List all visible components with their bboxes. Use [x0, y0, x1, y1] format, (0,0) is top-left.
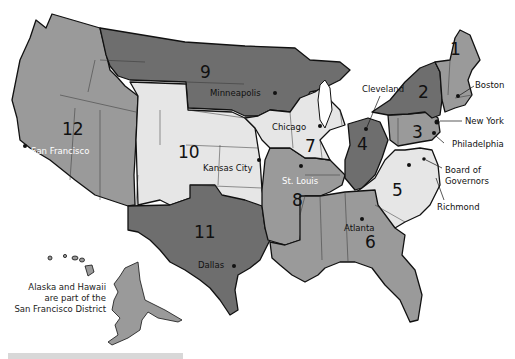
district-5-number: 5	[392, 180, 403, 200]
dallas-dot	[232, 264, 236, 268]
kansas-city-label: Kansas City	[203, 163, 252, 173]
kansas-city-dot	[257, 158, 261, 162]
district-10-number: 10	[178, 142, 200, 162]
district-7-number: 7	[305, 136, 316, 156]
district-1-number: 1	[450, 39, 461, 59]
st-louis-label: St. Louis	[282, 176, 319, 186]
district-3-number: 3	[412, 122, 423, 142]
board-of-governors-dot	[422, 157, 426, 161]
chicago-dot	[318, 124, 322, 128]
district-6-number: 6	[365, 232, 376, 252]
dallas-label: Dallas	[198, 260, 225, 270]
district-9-number: 9	[200, 62, 211, 82]
st-louis-dot	[299, 164, 303, 168]
san-francisco-dot	[23, 144, 27, 148]
district-12-number: 12	[62, 119, 84, 139]
richmond-label: Richmond	[437, 202, 480, 212]
boston-label: Boston	[475, 80, 504, 90]
cleveland-dot	[364, 127, 368, 131]
district-4-number: 4	[357, 134, 368, 154]
cleveland-label: Cleveland	[362, 84, 404, 94]
district-8-number: 8	[292, 190, 303, 210]
chicago-label: Chicago	[272, 122, 306, 132]
alaska-shape	[108, 262, 182, 345]
richmond-dot	[407, 163, 411, 167]
alaska-hawaii-note-3: San Francisco District	[14, 304, 106, 314]
boston-dot	[456, 94, 460, 98]
federal-reserve-map: 1 2 3 4 5 6 7 8 9 10 11 12 Boston New Yo…	[0, 0, 515, 359]
district-11-number: 11	[194, 222, 216, 242]
minneapolis-dot	[273, 91, 277, 95]
philadelphia-dot	[432, 131, 436, 135]
district-11-region	[128, 185, 270, 315]
alaska-hawaii-note-2: are part of the	[45, 293, 106, 303]
atlanta-dot	[360, 217, 364, 221]
hawaii-shape	[48, 254, 94, 276]
new-york-label: New York	[465, 116, 504, 126]
san-francisco-label: San Francisco	[31, 146, 89, 156]
minneapolis-label: Minneapolis	[210, 88, 261, 98]
alaska-hawaii-note-1: Alaska and Hawaii	[28, 282, 106, 292]
philadelphia-label: Philadelphia	[452, 139, 504, 149]
new-york-dot	[435, 120, 440, 125]
district-2-number: 2	[418, 82, 429, 102]
atlanta-label: Atlanta	[344, 223, 375, 233]
board-of-governors-label-1: Board of	[445, 165, 482, 175]
board-of-governors-label-2: Governors	[445, 176, 489, 186]
caption-faint	[8, 353, 183, 359]
